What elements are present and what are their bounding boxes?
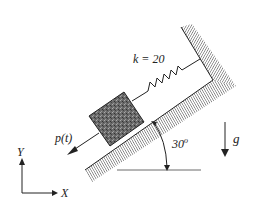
coordinate-axes: [19, 158, 58, 196]
force-label: p(t): [54, 131, 72, 145]
x-axis-label: X: [60, 186, 69, 200]
gravity-label: g: [233, 131, 240, 146]
y-axis-label: Y: [17, 145, 25, 159]
spring-constant-label: k = 20: [133, 52, 164, 66]
gravity-arrow: [221, 122, 229, 157]
wall: [181, 24, 236, 86]
angle-label: 30o: [171, 136, 188, 151]
incline-spring-mass-diagram: p(t) k = 20 30o g Y X: [0, 0, 255, 209]
